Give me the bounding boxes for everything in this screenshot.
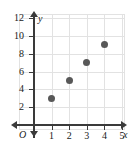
x-tick-label: 2 xyxy=(62,131,76,141)
x-tick-label: 4 xyxy=(97,131,111,141)
scatter-plot-figure: 24681012 12345 y x O xyxy=(0,0,135,148)
origin-label: O xyxy=(19,130,26,140)
y-tick-mark xyxy=(29,54,33,55)
x-tick-label: 3 xyxy=(80,131,94,141)
x-axis-arrow-left-icon xyxy=(11,121,17,129)
y-axis-arrow-up-icon xyxy=(30,11,38,17)
y-tick-mark xyxy=(29,72,33,73)
data-point xyxy=(66,77,73,84)
y-axis-label: y xyxy=(38,14,42,24)
y-tick-mark xyxy=(29,107,33,108)
y-tick-mark xyxy=(29,18,33,19)
data-point xyxy=(48,95,55,102)
y-tick-label: 12 xyxy=(6,13,24,23)
y-axis-line xyxy=(33,16,35,138)
y-tick-label: 10 xyxy=(6,31,24,41)
y-tick-label: 8 xyxy=(6,49,24,59)
y-tick-label: 2 xyxy=(6,102,24,112)
y-tick-label: 4 xyxy=(6,84,24,94)
x-axis-label: x xyxy=(123,130,127,140)
y-tick-mark xyxy=(29,89,33,90)
x-tick-label: 1 xyxy=(45,131,59,141)
y-tick-label: 6 xyxy=(6,67,24,77)
y-axis-arrow-down-icon xyxy=(30,131,38,137)
y-tick-mark xyxy=(29,36,33,37)
